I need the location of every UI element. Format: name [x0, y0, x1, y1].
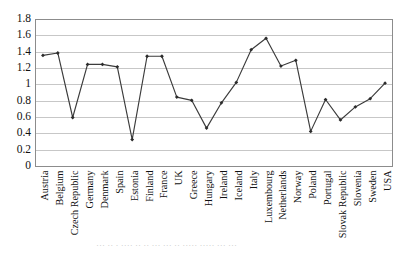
data-point-marker — [145, 54, 149, 58]
x-tick-label: Luxembourg — [263, 171, 274, 223]
data-point-marker — [56, 51, 60, 55]
x-tick-label: Ireland — [218, 171, 229, 200]
x-tick-label: Finland — [144, 171, 155, 202]
x-tick-label: Belgium — [54, 170, 65, 205]
y-tick-label: 1.6 — [17, 28, 32, 40]
x-tick-label: Poland — [307, 171, 318, 199]
cropped-caption: ··· ·· · ···· ·· ·· ··· ··· ·· ····· ···… — [96, 243, 311, 254]
data-point-marker — [294, 58, 298, 62]
x-tick-label: UK — [173, 170, 184, 185]
x-tick-label: France — [158, 170, 169, 198]
y-tick-label: 1.4 — [17, 45, 32, 57]
y-axis-tick-labels: 00.20.40.60.811.21.41.61.8 — [17, 12, 32, 171]
data-point-marker — [175, 95, 179, 99]
x-tick-label: Estonia — [129, 170, 140, 201]
x-tick-label: Germany — [84, 170, 95, 209]
line-chart: 00.20.40.60.811.21.41.61.8 AustriaBelgiu… — [0, 0, 410, 254]
x-tick-label: USA — [382, 170, 393, 191]
grid-lines — [36, 20, 393, 167]
x-tick-label: Greece — [188, 170, 199, 199]
data-point-marker — [71, 116, 75, 120]
x-tick-label: Slovak Republic — [337, 170, 348, 238]
y-tick-label: 0.4 — [17, 126, 32, 138]
y-tick-label: 0 — [25, 159, 31, 171]
x-tick-label: Slovenia — [352, 170, 363, 206]
x-tick-label: Portugal — [322, 170, 333, 205]
series-line-path — [43, 38, 385, 139]
chart-container: 00.20.40.60.811.21.41.61.8 AustriaBelgiu… — [0, 0, 410, 254]
data-point-marker — [160, 54, 164, 58]
y-tick-label: 1.8 — [17, 12, 32, 24]
x-tick-label: Iceland — [233, 171, 244, 201]
x-tick-label: Hungary — [203, 170, 214, 207]
x-tick-label: Austria — [39, 170, 50, 200]
y-tick-label: 0.2 — [17, 143, 32, 155]
data-point-marker — [41, 54, 45, 58]
caption-text: ··· ·· · ···· ·· ·· ··· ··· ·· ····· ···… — [96, 243, 311, 251]
x-tick-label: Netherlands — [277, 170, 288, 219]
x-tick-label: Spain — [114, 171, 125, 194]
y-tick-label: 1.2 — [17, 61, 32, 73]
data-point-marker — [309, 129, 313, 133]
x-tick-label: Denmark — [99, 170, 110, 209]
y-tick-label: 0.6 — [17, 110, 32, 122]
data-point-marker — [101, 63, 105, 67]
plot-area-border — [36, 20, 393, 167]
y-tick-label: 1 — [25, 77, 31, 89]
data-point-marker — [86, 63, 90, 67]
x-tick-label: Czech Republic — [69, 170, 80, 235]
x-tick-label: Sweden — [367, 171, 378, 203]
x-tick-label: Italy — [248, 170, 259, 190]
x-axis-tick-labels: AustriaBelgiumCzech RepublicGermanyDenma… — [39, 170, 392, 239]
x-tick-label: Norway — [292, 170, 303, 204]
y-tick-label: 0.8 — [17, 94, 32, 106]
data-point-marker — [130, 138, 134, 142]
